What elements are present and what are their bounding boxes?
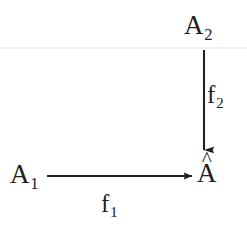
commutative-diagram-figure: A2 A1 ^A f2 f1 bbox=[0, 0, 247, 231]
edge-f1-base: f bbox=[101, 190, 109, 217]
node-a-hat-wrapper: ^A bbox=[197, 160, 217, 187]
node-a1-base: A bbox=[10, 159, 30, 189]
node-a2-subscript: 2 bbox=[204, 25, 212, 44]
circumflex-accent-icon: ^ bbox=[202, 149, 212, 171]
edge-label-f2: f2 bbox=[207, 82, 223, 107]
edge-label-f1: f1 bbox=[101, 191, 117, 216]
edge-f2-subscript: 2 bbox=[216, 94, 224, 111]
node-a1-subscript: 1 bbox=[30, 174, 38, 193]
node-a2-base: A bbox=[184, 10, 204, 40]
node-label-a1: A1 bbox=[10, 161, 38, 188]
node-label-a-hat: ^A bbox=[197, 160, 217, 187]
node-label-a2: A2 bbox=[184, 12, 212, 39]
edge-f1-subscript: 1 bbox=[110, 203, 118, 220]
edge-f2-base: f bbox=[207, 81, 215, 108]
